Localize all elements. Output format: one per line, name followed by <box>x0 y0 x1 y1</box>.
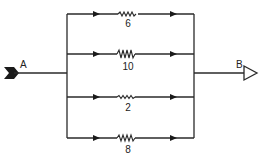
resistor-icon <box>117 50 135 58</box>
terminal-b-label: B <box>236 59 243 70</box>
current-arrow-icon <box>170 51 177 57</box>
branch-2: 2 <box>67 94 194 113</box>
terminal-a: A <box>4 59 67 79</box>
current-arrow-icon <box>93 94 100 100</box>
current-arrow-icon <box>93 11 100 17</box>
current-arrow-icon <box>93 135 100 141</box>
resistance-label: 2 <box>125 102 131 113</box>
resistance-label: 6 <box>125 18 131 29</box>
current-arrow-icon <box>170 94 177 100</box>
current-arrow-icon <box>170 11 177 17</box>
terminal-b: B <box>194 59 257 80</box>
resistance-label: 10 <box>122 61 134 72</box>
current-arrow-icon <box>170 135 177 141</box>
output-terminal-icon <box>244 66 257 80</box>
resistor-icon <box>117 96 135 99</box>
terminal-a-label: A <box>20 59 27 70</box>
branch-6: 6 <box>67 11 194 29</box>
resistor-icon <box>118 12 136 16</box>
branch-8: 8 <box>67 135 194 155</box>
resistor-icon <box>117 135 135 141</box>
current-arrow-icon <box>93 51 100 57</box>
resistance-label: 8 <box>125 144 131 155</box>
circuit-diagram: A B 6 10 2 <box>0 0 262 164</box>
branch-10: 10 <box>67 50 194 72</box>
